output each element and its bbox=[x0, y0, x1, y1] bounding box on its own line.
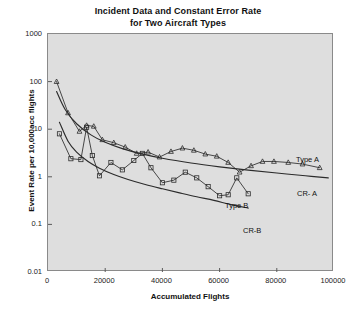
y-tick-label: 0.01 bbox=[0, 267, 42, 276]
x-tick-label: 0 bbox=[45, 276, 49, 285]
x-tick-label: 80000 bbox=[265, 276, 286, 285]
chart-figure: Incident Data and Constant Error Rate fo… bbox=[0, 0, 356, 318]
y-axis-title: Event Rate per 10,000acc flights bbox=[27, 61, 36, 241]
y-tick-label: 100 bbox=[0, 76, 42, 85]
series-line-type-a bbox=[57, 82, 320, 173]
series-annotation-type-b: Type B bbox=[225, 201, 248, 210]
x-axis-title: Accumulated Flights bbox=[47, 292, 333, 301]
chart-title-line-2: for Two Aircraft Types bbox=[0, 18, 356, 30]
y-tick-label: 0.1 bbox=[0, 219, 42, 228]
plot-canvas bbox=[48, 34, 334, 272]
y-tick-label: 1 bbox=[0, 171, 42, 180]
x-tick-label: 20000 bbox=[94, 276, 115, 285]
series-annotation-cr-b: CR-B bbox=[243, 226, 261, 235]
chart-title: Incident Data and Constant Error Rate fo… bbox=[0, 6, 356, 29]
chart-title-line-1: Incident Data and Constant Error Rate bbox=[0, 6, 356, 18]
series-annotation-type-a: Type A bbox=[296, 155, 319, 164]
x-tick-label: 100000 bbox=[320, 276, 345, 285]
x-tick-label: 40000 bbox=[151, 276, 172, 285]
series-line-cr-b bbox=[59, 122, 248, 208]
series-line-cr-a bbox=[57, 91, 329, 177]
plot-area bbox=[47, 33, 333, 271]
series-annotation-cr-a: CR- A bbox=[297, 189, 317, 198]
x-tick-label: 60000 bbox=[208, 276, 229, 285]
y-tick-label: 10 bbox=[0, 124, 42, 133]
y-tick-label: 1000 bbox=[0, 29, 42, 38]
